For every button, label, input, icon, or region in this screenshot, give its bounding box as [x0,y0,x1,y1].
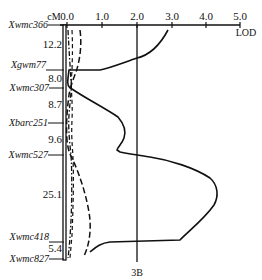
chromosome-bar [63,25,66,260]
interval-label: 25.1 [43,188,62,200]
interval-label: 9.6 [48,133,62,145]
tick-2: 2.0 [130,10,144,22]
tick-1: 1.0 [95,10,109,22]
qtl-lod-chart: 0.0 1.0 2.0 3.0 4.0 5.0 cM LOD Xwmc366 X… [0,0,262,280]
marker-label: Xwmc307 [9,82,50,93]
marker-label: Xwmc366 [8,19,48,30]
interval-label: 12.2 [43,38,62,50]
tick-3: 3.0 [165,10,179,22]
tick-5: 5.0 [233,10,247,22]
tick-0: 0.0 [60,10,74,22]
marker-label: Xgwm77 [10,59,47,70]
interval-label: 8.7 [48,98,62,110]
tick-4: 4.0 [199,10,213,22]
interval-label: 5.4 [48,242,62,254]
marker-label: Xwmc527 [8,149,49,160]
marker-label: Xwmc418 [9,231,49,242]
interval-label: 8.0 [48,72,62,84]
lod-curve-dashdot [68,30,72,258]
cm-unit-label: cM [47,11,60,22]
marker-label: Xwmc827 [9,253,50,264]
lod-unit-label: LOD [236,27,257,38]
chromosome-label: 3B [131,267,143,278]
marker-label: Xbarc251 [8,117,48,128]
